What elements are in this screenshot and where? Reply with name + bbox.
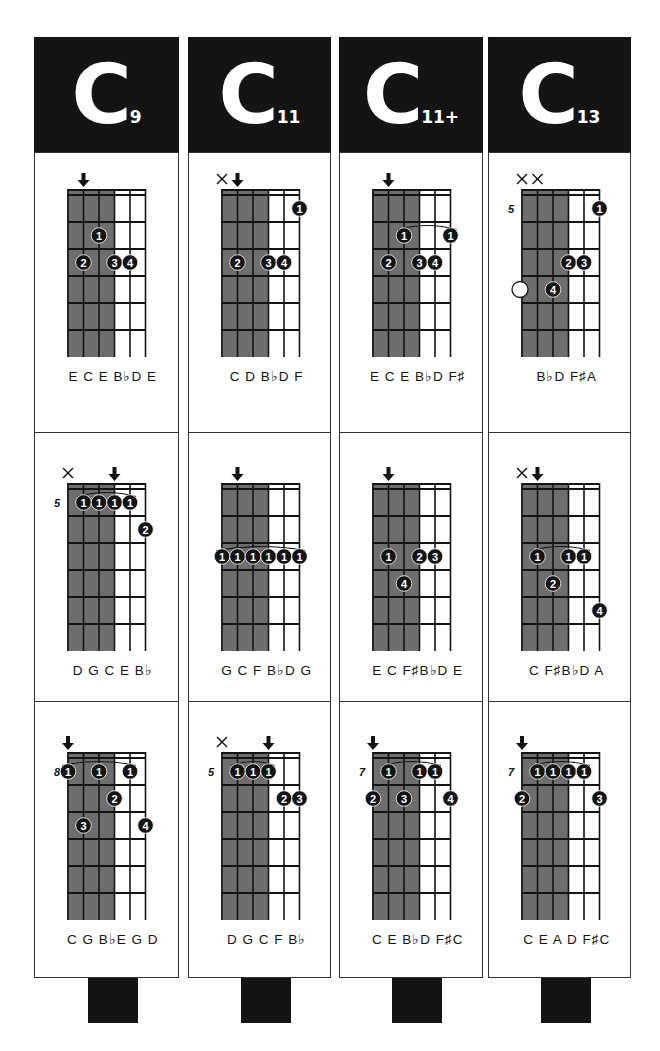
chord-note-names: E C F♯B♭D E [372,663,463,678]
chord-note-names: D G C F B♭ [227,932,306,947]
root-string-arrow-icon [232,467,244,481]
finger-dot: 1 [292,201,308,217]
svg-text:1: 1 [565,766,571,778]
finger-dot: 1 [561,764,577,780]
finger-dot: 4 [138,818,154,834]
column-tab [241,978,291,1023]
svg-text:1: 1 [581,766,587,778]
finger-dot: 1 [91,764,107,780]
svg-text:1: 1 [416,766,422,778]
finger-dot: 2 [365,791,381,807]
svg-text:3: 3 [111,257,117,269]
chord-title: C9 [35,54,178,136]
finger-dot: 4 [396,576,412,592]
chord-note-names: C F♯B♭D A [529,663,604,678]
finger-dot: 2 [561,255,577,271]
svg-text:1: 1 [111,497,117,509]
finger-dot: 1 [427,764,443,780]
chord-extension: 11 [277,107,301,127]
root-string-arrow-icon [62,736,74,750]
finger-dot: 1 [530,549,546,565]
svg-text:3: 3 [432,551,438,563]
chord-note-names: C G B♭E G D [67,932,159,947]
svg-text:1: 1 [385,766,391,778]
finger-dot: 1 [561,549,577,565]
fretboard-diagram: 1234C D B♭D F [189,153,329,432]
finger-dot: 1 [396,228,412,244]
fret-position-label: 7 [359,766,366,778]
chord-diagram-panel: 1234E C E B♭D E511112D G C E B♭8111234C … [34,152,179,978]
finger-dot: 3 [261,255,277,271]
chord-header: C11 [188,37,331,153]
finger-dot: 4 [545,282,561,298]
finger-dot: 1 [292,549,308,565]
svg-text:4: 4 [142,820,149,832]
svg-text:3: 3 [581,257,587,269]
chord-header: C13 [488,37,631,153]
chord-diagram: 511123D G C F B♭ [189,701,330,979]
finger-dot: 1 [530,764,546,780]
chord-diagram-panel: 51234B♭D F♯A11124C F♯B♭D A7111123C E A D… [488,152,631,978]
svg-text:1: 1 [234,551,240,563]
finger-dot: 1 [230,549,246,565]
finger-dot: 1 [122,495,138,511]
svg-text:3: 3 [416,257,422,269]
svg-text:3: 3 [80,820,86,832]
chord-diagram: 511112D G C E B♭ [35,432,178,701]
finger-dot: 2 [138,522,154,538]
svg-text:1: 1 [65,766,71,778]
svg-text:1: 1 [296,203,302,215]
svg-text:1: 1 [96,230,102,242]
chord-diagram: 1234C D B♭D F [189,153,330,432]
column-tab [541,978,591,1023]
chord-extension: 13 [577,107,601,127]
finger-dot: 1 [576,549,592,565]
fret-position-label: 5 [508,203,515,215]
chord-diagram: 1234E C F♯B♭D E [340,432,482,701]
svg-text:2: 2 [234,257,240,269]
muted-string-x-icon [217,737,227,747]
svg-text:4: 4 [447,793,454,805]
root-string-arrow-icon [383,467,395,481]
finger-dot: 1 [276,549,292,565]
muted-string-x-icon [517,468,527,478]
finger-dot: 1 [412,764,428,780]
svg-text:4: 4 [550,284,557,296]
chord-header: C11+ [339,37,483,153]
fretboard-diagram: 511123D G C F B♭ [189,702,329,980]
fretboard-diagram: 51234B♭D F♯A [489,153,629,432]
chord-note-names: C E B♭D F♯C [372,932,464,947]
chord-diagram: 1234E C E B♭D E [35,153,178,432]
chord-header: C9 [34,37,179,153]
finger-dot: 2 [412,549,428,565]
svg-text:2: 2 [370,793,376,805]
svg-text:3: 3 [296,793,302,805]
finger-dot: 1 [381,549,397,565]
finger-dot: 1 [122,764,138,780]
finger-dot: 1 [245,549,261,565]
svg-text:2: 2 [565,257,571,269]
finger-dot: 1 [245,764,261,780]
optional-note-circle-icon [512,282,528,298]
muted-string-x-icon [533,174,543,184]
root-string-arrow-icon [232,173,244,187]
finger-dot: 2 [276,791,292,807]
svg-text:1: 1 [534,766,540,778]
finger-dot: 1 [381,764,397,780]
fretboard-diagram: 11124C F♯B♭D A [489,433,629,702]
finger-dot: 3 [107,255,123,271]
svg-text:2: 2 [519,793,525,805]
finger-dot: 4 [427,255,443,271]
svg-text:3: 3 [401,793,407,805]
svg-text:2: 2 [385,257,391,269]
svg-text:1: 1 [447,230,453,242]
fret-position-label: 5 [54,497,61,509]
finger-dot: 1 [261,549,277,565]
finger-dot: 2 [76,255,92,271]
svg-text:1: 1 [565,551,571,563]
svg-text:1: 1 [96,497,102,509]
finger-dot: 2 [230,255,246,271]
svg-text:1: 1 [250,766,256,778]
root-string-arrow-icon [367,736,379,750]
finger-dot: 1 [107,495,123,511]
